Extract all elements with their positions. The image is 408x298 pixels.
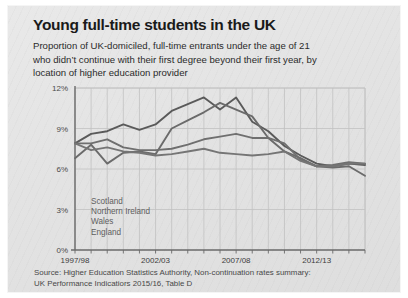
x-axis-tick-label: 1997/98 (61, 256, 90, 265)
source-line-1: Source: Higher Education Statistics Auth… (34, 268, 364, 279)
legend-item-england: England (91, 228, 121, 237)
y-axis-tick-label: 0% (56, 246, 68, 255)
axes (71, 86, 365, 250)
legend: ScotlandNorthern IrelandWalesEngland (91, 197, 151, 237)
x-axis-tick-label: 2007/08 (222, 256, 251, 265)
legend-item-northern-ireland: Northern Ireland (91, 207, 151, 216)
y-axis-tick-label: 6% (56, 165, 68, 174)
source-note: Source: Higher Education Statistics Auth… (34, 268, 364, 289)
legend-item-scotland: Scotland (91, 197, 123, 206)
y-axis-tick-labels: 0%3%6%9%12% (52, 84, 68, 255)
y-axis-tick-label: 9% (56, 125, 68, 134)
y-axis-tick-label: 3% (56, 206, 68, 215)
line-chart: 0%3%6%9%12% 1997/982002/032007/082012/13… (8, 6, 400, 292)
source-line-2: UK Performance Indicatiors 2015/16, Tabl… (34, 279, 364, 290)
chart-card: Young full-time students in the UK Propo… (8, 6, 400, 292)
legend-item-wales: Wales (91, 217, 113, 226)
gridlines (75, 88, 365, 250)
x-axis-tick-labels: 1997/982002/032007/082012/13 (61, 256, 332, 265)
x-axis-tick-label: 2002/03 (141, 256, 170, 265)
x-axis-tick-label: 2012/13 (302, 256, 331, 265)
chart-svg: 0%3%6%9%12% 1997/982002/032007/082012/13… (8, 6, 400, 292)
y-axis-tick-label: 12% (52, 84, 68, 93)
